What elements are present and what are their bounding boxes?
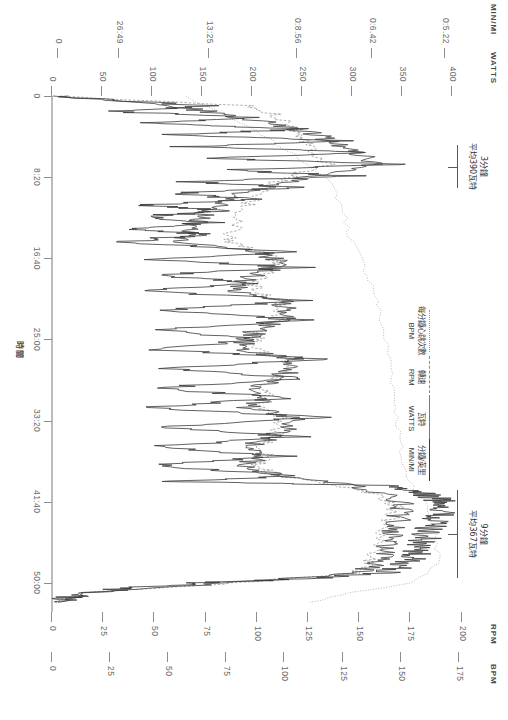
chart-page: 4003503002502001501005000:5.220:6.420:8.…	[0, 0, 508, 720]
minmi-tick-label: 0:6.42	[368, 18, 378, 44]
annotation-interval-9min: 9分鐘平均367瓦特	[466, 488, 488, 580]
time-tick-mark	[44, 177, 52, 178]
minmi-tick-label: 0:8.56	[293, 18, 303, 44]
rpm-tick-mark	[51, 612, 52, 622]
rpm-tick-label: 150	[355, 626, 365, 641]
series-bpm	[186, 96, 440, 602]
bpm-tick-mark	[342, 652, 343, 662]
bpm-tick-label: 150	[397, 666, 407, 681]
bpm-tick-mark	[109, 652, 110, 662]
annotation-duration: 9分鐘	[477, 488, 488, 580]
bpm-tick-label: 50	[164, 666, 174, 676]
minmi-tick-mark	[296, 48, 297, 58]
watts-tick-label: 100	[148, 67, 158, 82]
watts-tick-mark	[351, 86, 352, 96]
bpm-tick-label: 100	[280, 666, 290, 681]
watts-tick-label: 150	[198, 67, 208, 82]
watts-tick-mark	[151, 86, 152, 96]
rpm-tick-mark	[153, 612, 154, 622]
chart-traces	[0, 0, 508, 720]
rpm-tick-label: 0	[48, 626, 58, 631]
rpm-tick-mark	[205, 612, 206, 622]
axis-title-minmi: MIN/MI	[489, 4, 498, 35]
rpm-tick-mark	[256, 612, 257, 622]
series-rpm	[52, 96, 404, 602]
watts-tick-label: 300	[348, 67, 358, 82]
rpm-tick-label: 50	[150, 626, 160, 636]
watts-tick-label: 350	[398, 67, 408, 82]
plot-area: 4003503002502001501005000:5.220:6.420:8.…	[0, 0, 508, 720]
annotation-interval-3min: 3分鐘平均390瓦特	[466, 121, 488, 213]
time-tick-label: 41:40	[32, 488, 42, 516]
watts-tick-mark	[51, 86, 52, 96]
annotation-stem	[448, 167, 458, 168]
legend-label-unit: MIN/MI	[405, 430, 416, 490]
bpm-tick-label: 0	[48, 666, 58, 671]
bpm-tick-mark	[51, 652, 52, 662]
bpm-tick-label: 175	[455, 666, 465, 681]
time-tick-mark	[44, 96, 52, 97]
rpm-tick-mark	[102, 612, 103, 622]
bpm-tick-mark	[283, 652, 284, 662]
time-tick-label: 33:20	[32, 407, 42, 435]
rpm-tick-label: 125	[304, 626, 314, 641]
bpm-tick-label: 75	[222, 666, 232, 676]
time-tick-label: 8:20	[32, 163, 42, 191]
watts-tick-mark	[251, 86, 252, 96]
time-tick-label: 16:40	[32, 244, 42, 272]
minmi-tick-mark	[208, 48, 209, 58]
watts-tick-mark	[401, 86, 402, 96]
axis-title-rpm: RPM	[489, 624, 498, 644]
time-tick-label: 25:00	[32, 325, 42, 353]
watts-tick-label: 50	[98, 72, 108, 82]
legend-item-minmi: 分鐘/英里MIN/MI	[405, 430, 431, 490]
minmi-tick-mark	[371, 48, 372, 58]
minmi-tick-label: 13:25	[205, 21, 215, 44]
minmi-tick-mark	[57, 48, 58, 58]
rpm-tick-label: 25	[99, 626, 109, 636]
time-tick-mark	[44, 583, 52, 584]
legend-swatch-minmi	[429, 439, 430, 481]
minmi-tick-mark	[118, 48, 119, 58]
legend-swatch-bpm	[429, 310, 430, 352]
watts-tick-mark	[301, 86, 302, 96]
rpm-tick-label: 75	[202, 626, 212, 636]
bpm-tick-mark	[400, 652, 401, 662]
rpm-tick-label: 100	[253, 626, 263, 641]
rpm-tick-mark	[409, 612, 410, 622]
annotation-average: 平均367瓦特	[466, 488, 477, 580]
annotation-average: 平均390瓦特	[466, 121, 477, 213]
time-tick-mark	[44, 421, 52, 422]
time-tick-label: 50:00	[32, 569, 42, 597]
rpm-tick-label: 175	[406, 626, 416, 641]
bpm-tick-mark	[167, 652, 168, 662]
watts-tick-label: 200	[248, 67, 258, 82]
watts-tick-label: 0	[48, 77, 58, 82]
time-tick-mark	[44, 258, 52, 259]
bpm-tick-label: 25	[106, 666, 116, 676]
watts-tick-mark	[101, 86, 102, 96]
axis-title-watts: WATTS	[489, 52, 498, 84]
rpm-tick-mark	[307, 612, 308, 622]
time-tick-mark	[44, 339, 52, 340]
rpm-tick-mark	[461, 612, 462, 622]
minmi-tick-label: 0	[54, 39, 64, 44]
watts-tick-mark	[451, 86, 452, 96]
axis-title-bpm: BPM	[489, 664, 498, 684]
axis-title-time: 時間	[15, 341, 26, 359]
legend-label-cjk: 分鐘/英里	[416, 430, 427, 490]
minmi-tick-label: 0:5.22	[441, 18, 451, 44]
bpm-tick-mark	[458, 652, 459, 662]
rpm-tick-mark	[358, 612, 359, 622]
minmi-tick-mark	[444, 48, 445, 58]
rpm-tick-label: 200	[458, 626, 468, 641]
minmi-tick-label: 26:49	[115, 21, 125, 44]
bpm-tick-label: 125	[339, 666, 349, 681]
time-tick-mark	[44, 502, 52, 503]
series-watts	[52, 96, 455, 602]
annotation-stem	[448, 534, 458, 535]
watts-tick-label: 250	[298, 67, 308, 82]
watts-tick-mark	[201, 86, 202, 96]
series-min-mi	[53, 96, 414, 602]
rotated-figure: 4003503002502001501005000:5.220:6.420:8.…	[0, 0, 508, 720]
